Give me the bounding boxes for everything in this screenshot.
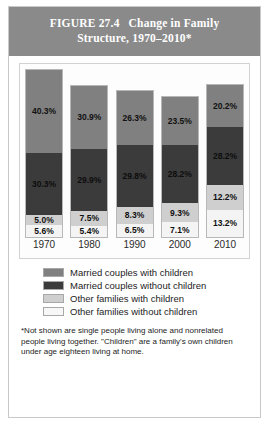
stacked-bar: 23.5%28.2%9.3%7.1% (161, 96, 199, 238)
bar-segment: 5.6% (26, 225, 62, 237)
bar-segment: 12.2% (207, 185, 243, 210)
bar-segment: 29.8% (117, 145, 153, 206)
bar-segment: 5.4% (71, 226, 107, 237)
bar-segment: 28.2% (207, 127, 243, 185)
bar-segment: 30.9% (71, 86, 107, 149)
legend-swatch-icon (43, 294, 64, 303)
figure-title-main: Change in Family (129, 17, 220, 29)
chart-panel: 40.3%30.3%5.0%5.6%30.9%29.9%7.5%5.4%26.3… (19, 63, 250, 259)
bar-segment: 7.5% (71, 211, 107, 226)
bar-segment: 26.3% (117, 91, 153, 145)
legend-label: Married couples with children (70, 267, 193, 278)
legend-item: Married couples with children (43, 267, 260, 278)
legend-label: Married couples without children (70, 280, 206, 291)
legend-swatch-icon (43, 268, 64, 277)
stacked-bar: 26.3%29.8%8.3%6.5% (116, 90, 154, 238)
bar-segment: 23.5% (162, 97, 198, 145)
x-axis-labels: 19701980199020002010 (25, 239, 244, 257)
bar-column-2000: 23.5%28.2%9.3%7.1% (161, 69, 199, 238)
stacked-bar: 30.9%29.9%7.5%5.4% (70, 85, 108, 238)
stacked-bar: 20.2%28.2%12.2%13.2% (206, 84, 244, 238)
legend-item: Other families with children (43, 293, 260, 304)
legend-label: Other families with children (70, 293, 184, 304)
bar-segment: 13.2% (207, 210, 243, 237)
bar-segment: 7.1% (162, 222, 198, 237)
bar-column-2010: 20.2%28.2%12.2%13.2% (206, 69, 244, 238)
figure-card: FIGURE 27.4Change in Family Structure, 1… (8, 6, 261, 418)
x-tick-2000: 2000 (161, 239, 199, 250)
x-tick-1980: 1980 (70, 239, 108, 250)
legend-swatch-icon (43, 307, 64, 316)
figure-title-band: FIGURE 27.4Change in Family Structure, 1… (9, 7, 260, 56)
figure-number: FIGURE 27.4 (50, 17, 120, 29)
x-tick-2010: 2010 (206, 239, 244, 250)
figure-title-line1: FIGURE 27.4Change in Family (19, 16, 250, 31)
stacked-bar-plot: 40.3%30.3%5.0%5.6%30.9%29.9%7.5%5.4%26.3… (25, 69, 244, 238)
figure-footnote: *Not shown are single people living alon… (21, 326, 248, 358)
bar-segment: 5.0% (26, 215, 62, 225)
bar-segment: 28.2% (162, 145, 198, 203)
bar-segment: 29.9% (71, 149, 107, 210)
stacked-bar: 40.3%30.3%5.0%5.6% (25, 69, 63, 238)
bar-segment: 40.3% (26, 70, 62, 153)
bar-column-1990: 26.3%29.8%8.3%6.5% (116, 69, 154, 238)
bar-segment: 9.3% (162, 203, 198, 222)
bar-column-1970: 40.3%30.3%5.0%5.6% (25, 69, 63, 238)
x-tick-1970: 1970 (25, 239, 63, 250)
figure-title-line2: Structure, 1970–2010* (19, 31, 250, 46)
bar-segment: 30.3% (26, 153, 62, 215)
legend-swatch-icon (43, 281, 64, 290)
legend-label: Other families without children (70, 306, 197, 317)
bar-column-1980: 30.9%29.9%7.5%5.4% (70, 69, 108, 238)
x-tick-1990: 1990 (116, 239, 154, 250)
legend-item: Married couples without children (43, 280, 260, 291)
legend-item: Other families without children (43, 306, 260, 317)
bar-segment: 6.5% (117, 224, 153, 237)
bar-segment: 8.3% (117, 207, 153, 224)
chart-legend: Married couples with childrenMarried cou… (9, 267, 260, 317)
bar-segment: 20.2% (207, 85, 243, 127)
